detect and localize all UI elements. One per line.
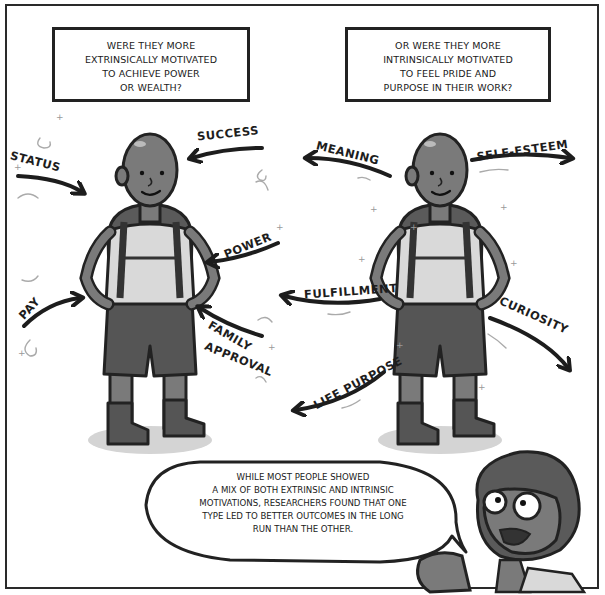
label-success: SUCCESS (196, 123, 259, 143)
caption-line: WERE THEY MORE (55, 39, 247, 53)
extrinsic-hiker-figure (86, 134, 214, 454)
bubble-line: WHILE MOST PEOPLE SHOWED (168, 471, 438, 484)
caption-line: EXTRINSICALLY MOTIVATED (55, 53, 247, 67)
caption-line: TO FEEL PRIDE AND (348, 67, 548, 81)
bubble-line: RUN THAN THE OTHER. (168, 523, 438, 536)
caption-line: OR WERE THEY MORE (348, 39, 548, 53)
label-life-purpose: LIFE PURPOSE (311, 354, 404, 413)
svg-text:+: + (370, 204, 378, 214)
label-pay: PAY (16, 294, 43, 322)
caption-line: PURPOSE IN THEIR WORK? (348, 81, 548, 95)
caption-line: TO ACHIEVE POWER (55, 67, 247, 81)
speech-bubble-text: WHILE MOST PEOPLE SHOWED A MIX OF BOTH E… (168, 471, 438, 536)
caption-intrinsic-question: OR WERE THEY MORE INTRINSICALLY MOTIVATE… (345, 27, 551, 102)
caption-extrinsic-question: WERE THEY MORE EXTRINSICALLY MOTIVATED T… (52, 27, 250, 102)
svg-text:+: + (510, 258, 518, 268)
svg-text:+: + (478, 382, 486, 392)
svg-text:+: + (358, 254, 366, 264)
label-curiosity: CURIOSITY (497, 294, 570, 337)
caption-line: INTRINSICALLY MOTIVATED (348, 53, 548, 67)
label-power: POWER (222, 230, 274, 262)
caption-line: OR WEALTH? (55, 81, 247, 95)
svg-text:+: + (268, 342, 276, 352)
svg-text:+: + (500, 202, 508, 212)
label-self-esteem: SELF-ESTEEM (476, 137, 569, 164)
svg-text:+: + (410, 222, 418, 232)
bubble-line: TYPE LED TO BETTER OUTCOMES IN THE LONG (168, 510, 438, 523)
svg-text:+: + (396, 340, 404, 350)
svg-text:+: + (18, 348, 26, 358)
bubble-line: MOTIVATIONS, RESEARCHERS FOUND THAT ONE (168, 497, 438, 510)
svg-text:+: + (276, 222, 284, 232)
svg-text:+: + (56, 112, 64, 122)
bubble-line: A MIX OF BOTH EXTRINSIC AND INTRINSIC (168, 484, 438, 497)
